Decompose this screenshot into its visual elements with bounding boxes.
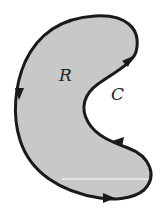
region-diagram [0, 0, 163, 216]
region-r-boundary-c [15, 16, 151, 199]
region-label: R [59, 65, 72, 85]
curve-label: C [111, 84, 124, 104]
